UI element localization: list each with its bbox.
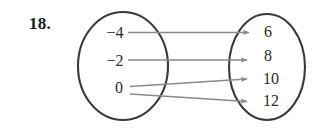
range-value-1: 8 bbox=[264, 47, 272, 64]
mapping-diagram-figure: 18. −4 −2 0 6 8 10 12 bbox=[0, 0, 323, 129]
range-value-2: 10 bbox=[263, 70, 279, 87]
domain-value-0: −4 bbox=[106, 24, 123, 41]
mapping-arrow-0-to-10 bbox=[130, 79, 247, 87]
domain-value-1: −2 bbox=[106, 52, 123, 69]
mapping-diagram-svg: −4 −2 0 6 8 10 12 bbox=[0, 0, 323, 129]
domain-value-2: 0 bbox=[115, 79, 123, 96]
range-value-0: 6 bbox=[264, 23, 272, 40]
mapping-arrow-0-to-12 bbox=[130, 94, 247, 102]
range-value-3: 12 bbox=[263, 92, 279, 109]
